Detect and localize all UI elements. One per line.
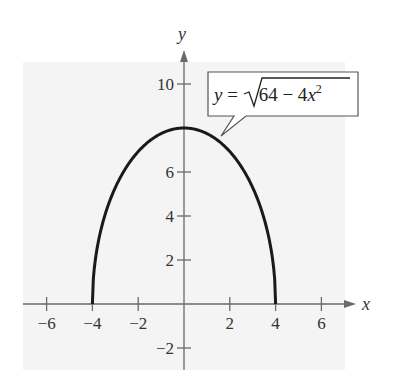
x-tick-label: −6 (38, 314, 56, 333)
y-tick-label: 10 (157, 75, 174, 94)
x-tick-label: 4 (271, 314, 280, 333)
x-tick-label: −2 (129, 314, 147, 333)
y-tick-label: −2 (156, 339, 174, 358)
y-tick-label: 2 (166, 251, 175, 270)
x-tick-label: −4 (83, 314, 102, 333)
y-tick-label: 6 (166, 163, 175, 182)
y-axis-label: y (176, 24, 186, 44)
equation-label: y = 64 − 4x2 (212, 82, 322, 105)
x-axis-label: x (361, 294, 370, 314)
y-tick-label: 4 (166, 207, 175, 226)
y-axis-arrow-icon (180, 50, 188, 62)
x-axis-arrow-icon (344, 300, 356, 308)
chart: −6−4−2246 x −224610 y y = 64 − 4x2 (0, 0, 395, 390)
x-tick-label: 6 (317, 314, 326, 333)
x-tick-label: 2 (226, 314, 235, 333)
